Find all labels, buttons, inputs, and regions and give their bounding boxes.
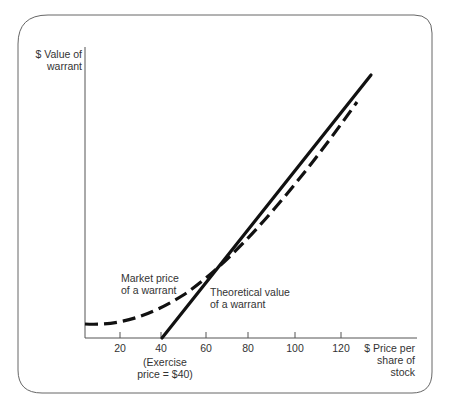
- exercise-price-annotation: (Exercise price = $40): [130, 356, 200, 380]
- exercise-line: (Exercise: [130, 356, 200, 368]
- tick-label-120: 120: [326, 342, 356, 354]
- x-axis-label-line: $ Price per: [360, 342, 415, 354]
- market-line: of a warrant: [121, 284, 211, 296]
- y-axis-label: $ Value of warrant: [30, 48, 82, 72]
- tick-label-100: 100: [280, 342, 310, 354]
- theoretical-line: of a warrant: [210, 298, 320, 310]
- y-axis-label-line: $ Value of: [30, 48, 82, 60]
- tick-label-40: 40: [146, 342, 176, 354]
- market-price-annotation: Market price of a warrant: [121, 272, 211, 296]
- x-ticks: [120, 332, 341, 338]
- theoretical-line: Theoretical value: [210, 286, 320, 298]
- tick-label-20: 20: [105, 342, 135, 354]
- theoretical-value-annotation: Theoretical value of a warrant: [210, 286, 320, 310]
- x-axis-label-line: stock: [360, 366, 415, 378]
- x-axis-label-line: share of: [360, 354, 415, 366]
- market-line: Market price: [121, 272, 211, 284]
- exercise-line: price = $40): [130, 368, 200, 380]
- tick-label-60: 60: [191, 342, 221, 354]
- tick-label-80: 80: [233, 342, 263, 354]
- x-axis-label: $ Price per share of stock: [360, 342, 415, 378]
- y-axis-label-line: warrant: [30, 60, 82, 72]
